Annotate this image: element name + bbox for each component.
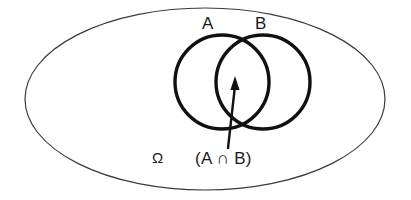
- set-a-circle: [175, 35, 269, 129]
- set-b-label: B: [255, 15, 266, 32]
- universal-set-label: Ω: [152, 150, 163, 165]
- set-b-circle: [216, 35, 310, 129]
- arrow-head-icon: [230, 76, 239, 90]
- intersection-label: (A ∩ B): [195, 150, 252, 167]
- venn-diagram: A B Ω (A ∩ B): [0, 0, 411, 200]
- intersection-arrow: [228, 76, 240, 148]
- set-a-label: A: [202, 15, 213, 32]
